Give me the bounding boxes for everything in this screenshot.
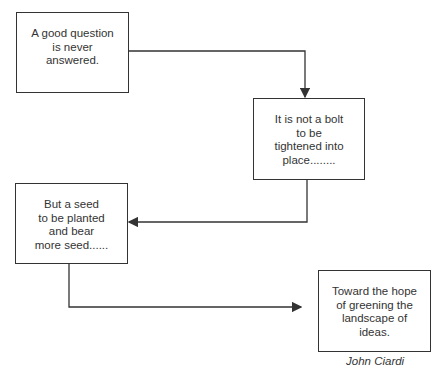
box-not-a-bolt: It is not a bolt to be tightened into pl… <box>253 98 365 180</box>
arrow-box2-to-box3 <box>129 179 307 222</box>
box-text: A good question is never answered. <box>31 13 114 68</box>
attribution: John Ciardi <box>346 355 404 367</box>
arrow-box1-to-box2 <box>128 51 305 97</box>
box-good-question: A good question is never answered. <box>16 12 129 93</box>
box-text: But a seed to be planted and bear more s… <box>35 184 109 252</box>
arrow-box3-to-box4 <box>69 263 301 307</box>
box-seed: But a seed to be planted and bear more s… <box>15 183 128 264</box>
box-text: It is not a bolt to be tightened into pl… <box>274 99 343 167</box>
box-greening: Toward the hope of greening the landscap… <box>318 270 431 352</box>
box-text: Toward the hope of greening the landscap… <box>332 271 417 339</box>
